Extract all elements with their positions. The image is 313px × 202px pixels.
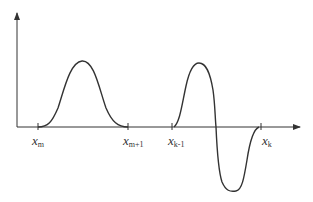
label-xm1: xm+1: [122, 133, 144, 149]
diagram-canvas: xm xm+1 xk-1 xk: [0, 0, 313, 202]
label-xm: xm: [31, 133, 45, 149]
label-xk: xk: [261, 133, 272, 149]
positive-bump-curve: [38, 61, 128, 127]
label-xk1: xk-1: [167, 133, 184, 149]
